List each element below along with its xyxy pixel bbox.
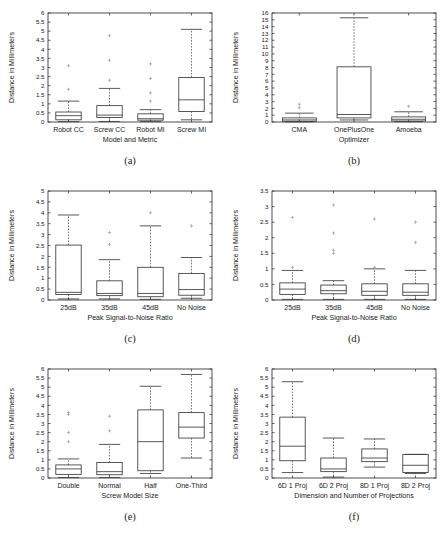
y-tick-label: 0.5 [36, 109, 45, 116]
box-25db [56, 215, 81, 299]
box-25db [280, 216, 305, 300]
box-6d-1-proj [280, 382, 305, 473]
box-screw-mi [179, 29, 204, 119]
y-tick-label: 3 [41, 231, 45, 238]
y-tick-label: 0 [265, 118, 269, 125]
y-tick-label: 8 [265, 64, 269, 71]
y-tick-label: 12 [262, 36, 269, 43]
y-tick-label: 2.5 [36, 429, 45, 436]
y-tick-label: 0.5 [36, 465, 45, 472]
y-axis-title: Distance in Millimeters [8, 32, 16, 103]
x-tick-label: 6D 1 Proj [278, 482, 308, 490]
box-8d-1-proj [362, 439, 387, 467]
x-axis-title: Optimizer [339, 136, 370, 144]
y-tick-label: 1.5 [36, 447, 45, 454]
y-tick-label: 1 [41, 456, 45, 463]
y-tick-label: 11 [262, 43, 269, 50]
y-tick-label: 9 [265, 57, 269, 64]
y-tick-label: 5 [265, 383, 269, 390]
y-tick-label: 0 [41, 296, 45, 303]
y-tick-label: 2.5 [36, 242, 45, 249]
box-plot-f: 00.511.522.533.544.555.566D 1 Proj6D 2 P… [224, 356, 448, 534]
x-tick-label: No Noise [401, 304, 430, 311]
y-tick-label: 4 [265, 91, 269, 98]
box-8d-2-proj [403, 454, 428, 473]
y-tick-label: 0.5 [260, 281, 269, 288]
y-tick-label: 2 [41, 253, 45, 260]
y-tick-label: 4 [41, 209, 45, 216]
panel-caption: (f) [349, 511, 360, 523]
x-axis-title: Model and Metric [103, 136, 158, 144]
y-tick-label: 4 [41, 46, 45, 53]
x-tick-label: 45dB [142, 304, 159, 311]
x-axis-title: Peak Signal-to-Noise Ratio [87, 314, 172, 322]
y-tick-label: 1 [41, 100, 45, 107]
x-tick-label: 6D 2 Proj [319, 482, 349, 490]
x-axis-title: Dimension and Number of Projections [294, 492, 414, 500]
box-no-noise [403, 221, 428, 300]
x-tick-label: 25dB [284, 304, 301, 311]
y-tick-label: 4.5 [36, 198, 45, 205]
y-tick-label: 13 [262, 30, 269, 37]
y-tick-label: 5 [41, 27, 45, 34]
y-tick-label: 2 [41, 438, 45, 445]
y-tick-label: 3 [41, 420, 45, 427]
box-screw-cc [97, 34, 122, 121]
panel-caption: (d) [348, 333, 361, 345]
y-tick-label: 3.5 [36, 411, 45, 418]
x-tick-label: Half [144, 482, 157, 489]
x-tick-label: Robot MI [136, 126, 164, 133]
y-tick-label: 0 [41, 474, 45, 481]
y-tick-label: 2 [265, 234, 269, 241]
box-robot-mi [138, 62, 163, 121]
box-plot-a: 00.511.522.533.544.555.56Robot CCScrew C… [0, 0, 224, 178]
y-tick-label: 4 [41, 402, 45, 409]
box-half [138, 386, 163, 473]
subplot-b: 012345678910111213141516CMAOnePlusOneAmo… [224, 0, 448, 178]
y-tick-label: 0 [265, 296, 269, 303]
box-no-noise [179, 224, 204, 298]
y-tick-label: 16 [262, 9, 269, 16]
box-plot-e: 00.511.522.533.544.555.56DoubleNormalHal… [0, 356, 224, 534]
x-tick-label: OnePlusOne [334, 126, 374, 133]
y-tick-label: 1.5 [36, 264, 45, 271]
y-tick-label: 3 [265, 98, 269, 105]
y-tick-label: 4.5 [36, 36, 45, 43]
box-oneplusone [337, 18, 371, 120]
y-tick-label: 0 [41, 118, 45, 125]
y-tick-label: 10 [262, 50, 269, 57]
y-axis-title: Distance in Millimeters [8, 210, 16, 281]
y-tick-label: 1 [41, 274, 45, 281]
y-tick-label: 6 [41, 365, 45, 372]
subplot-f: 00.511.522.533.544.555.566D 1 Proj6D 2 P… [224, 356, 448, 534]
box-35db [97, 231, 122, 299]
box-plot-d: 00.511.522.533.525dB35dB45dBNo NoiseDist… [224, 178, 448, 356]
x-tick-label: Screw CC [94, 126, 126, 133]
y-tick-label: 0.5 [260, 465, 269, 472]
y-tick-label: 1 [265, 265, 269, 272]
y-tick-label: 6 [265, 365, 269, 372]
y-tick-label: 3 [265, 203, 269, 210]
x-tick-label: Double [57, 482, 79, 489]
y-tick-label: 0.5 [36, 285, 45, 292]
y-tick-label: 5 [41, 383, 45, 390]
x-tick-label: CMA [292, 126, 308, 133]
x-tick-label: Screw MI [177, 126, 206, 133]
box-45db [138, 211, 163, 299]
x-tick-label: Amoeba [396, 126, 422, 133]
y-tick-label: 1 [265, 456, 269, 463]
y-tick-label: 4.5 [260, 392, 269, 399]
y-tick-label: 6 [265, 77, 269, 84]
y-axis-title: Distance in Millimeters [8, 388, 16, 459]
y-tick-label: 1.5 [260, 447, 269, 454]
subplot-e: 00.511.522.533.544.555.56DoubleNormalHal… [0, 356, 224, 534]
x-tick-label: 25dB [60, 304, 77, 311]
subplot-c: 00.511.522.533.544.5525dB35dB45dBNo Nois… [0, 178, 224, 356]
y-tick-label: 4 [265, 402, 269, 409]
x-tick-label: No Noise [177, 304, 206, 311]
y-tick-label: 3.5 [260, 411, 269, 418]
y-axis-title: Distance in Millimeters [232, 32, 240, 103]
box-cma [282, 103, 316, 122]
y-tick-label: 0 [265, 474, 269, 481]
plot-frame [48, 191, 212, 300]
